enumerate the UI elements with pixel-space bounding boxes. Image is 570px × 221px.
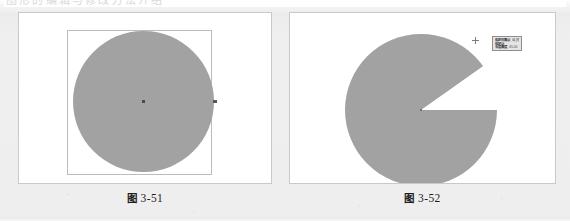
caption-prefix: 图 bbox=[127, 192, 137, 204]
figure-caption-3-52: 图 3-52 bbox=[289, 190, 556, 205]
tooltip-row: 长度角度 45.00 bbox=[495, 45, 519, 49]
caption-prefix: 图 bbox=[404, 192, 414, 204]
center-grip-handle[interactable] bbox=[142, 100, 145, 103]
crosshair-cursor-icon bbox=[472, 37, 479, 44]
figure-page: 图形的编辑与修改方法介绍 指定对角点 bbox=[0, 0, 570, 221]
cropped-text-remnant: 图形的编辑与修改方法介绍 bbox=[4, 0, 566, 7]
figure-panel-3-52: 指定对角点 或 [框选(F)] 指定点 长度角度 45.00 bbox=[289, 12, 556, 184]
cad-viewport-left bbox=[19, 13, 271, 183]
cad-viewport-right: 指定对角点 或 [框选(F)] 指定点 长度角度 45.00 bbox=[290, 13, 555, 183]
wedge-apex-point bbox=[420, 109, 422, 111]
caption-number: 3-52 bbox=[418, 192, 441, 204]
ghost-text: 图形的编辑与修改方法介绍 bbox=[6, 0, 164, 7]
dynamic-input-tooltip: 指定对角点 或 [框选(F)] 指定点 长度角度 45.00 bbox=[492, 36, 522, 51]
caption-number: 3-51 bbox=[141, 192, 164, 204]
quadrant-grip-handle[interactable] bbox=[213, 100, 217, 103]
tooltip-row-value: 45.00 bbox=[509, 45, 518, 49]
figure-panel-3-51 bbox=[18, 12, 272, 184]
page-bottom-edge bbox=[0, 217, 570, 221]
tooltip-row-label: 长度角度 bbox=[495, 45, 507, 49]
figure-caption-3-51: 图 3-51 bbox=[18, 190, 272, 205]
